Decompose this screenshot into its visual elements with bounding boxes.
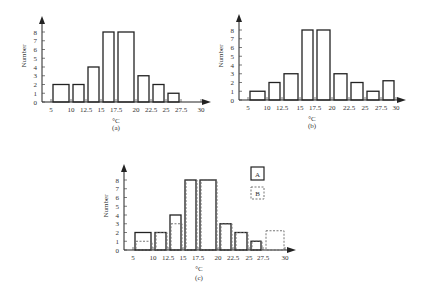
bar <box>200 180 216 250</box>
y-tick-label: 7 <box>34 37 38 45</box>
bar-series-b <box>201 180 217 250</box>
bar-series-b <box>236 233 248 251</box>
x-tick-label: 5 <box>246 104 250 112</box>
y-tick-label: 5 <box>116 203 120 211</box>
x-tick-label: 25 <box>246 254 254 262</box>
y-tick-label: 5 <box>231 53 235 61</box>
bar <box>153 85 164 103</box>
y-tick-label: 8 <box>116 177 120 185</box>
bar <box>88 67 99 102</box>
bar <box>284 74 298 100</box>
x-tick-label: 30 <box>393 104 401 112</box>
bar <box>73 85 84 103</box>
bar <box>317 30 330 100</box>
x-tick-label: 12.5 <box>276 104 289 112</box>
x-tick-label: 5 <box>49 106 53 114</box>
x-tick-label: 27.5 <box>175 106 188 114</box>
x-tick-label: 10 <box>264 104 272 112</box>
x-tick-label: 20 <box>329 104 337 112</box>
x-tick-label: 17.5 <box>309 104 322 112</box>
bar <box>235 233 247 251</box>
x-tick-label: 5 <box>131 254 135 262</box>
panel-caption: (c) <box>195 274 203 282</box>
bar-series-b <box>266 231 284 250</box>
bar-series-b <box>136 241 152 250</box>
y-axis-title: Number <box>20 44 28 68</box>
bar <box>118 32 134 102</box>
legend-label-b: B <box>255 190 260 198</box>
x-tick-label: 27.5 <box>257 254 270 262</box>
chart-panel-a: 01234567851012.51517.52022.52527.530Numb… <box>20 16 211 132</box>
y-tick-label: 4 <box>34 64 38 72</box>
y-tick-label: 0 <box>34 99 38 107</box>
y-axis-title: Number <box>102 194 110 218</box>
x-tick-label: 22.5 <box>145 106 158 114</box>
y-tick-label: 3 <box>231 70 235 78</box>
bar <box>168 93 179 102</box>
legend-label-a: A <box>255 171 260 179</box>
x-tick-label: 15 <box>297 104 305 112</box>
x-tick-label: 22.5 <box>343 104 356 112</box>
x-tick-label: 30 <box>198 106 206 114</box>
y-tick-label: 6 <box>116 194 120 202</box>
x-tick-label: 22.5 <box>227 254 240 262</box>
bar <box>351 83 363 101</box>
y-tick-label: 2 <box>34 81 38 89</box>
y-tick-label: 7 <box>231 35 235 43</box>
x-tick-label: 12.5 <box>162 254 175 262</box>
panel-caption: (a) <box>112 124 120 132</box>
bar <box>53 85 69 103</box>
y-tick-label: 4 <box>116 212 120 220</box>
x-axis-arrow-icon <box>287 247 296 253</box>
y-tick-label: 1 <box>34 90 38 98</box>
x-axis-title: °C <box>195 265 203 273</box>
y-tick-label: 0 <box>116 247 120 255</box>
x-tick-label: 17.5 <box>192 254 205 262</box>
x-tick-label: 17.5 <box>110 106 123 114</box>
bar <box>138 76 149 102</box>
bar <box>250 91 265 100</box>
chart-panel-c: 01234567851012.51517.52022.52527.530Numb… <box>102 164 296 282</box>
chart-panel-b: 01234567851012.51517.52022.52527.530Numb… <box>217 14 406 130</box>
y-tick-label: 1 <box>231 88 235 96</box>
y-tick-label: 7 <box>116 185 120 193</box>
x-tick-label: 20 <box>133 106 141 114</box>
y-axis-title: Number <box>217 44 225 68</box>
y-axis-arrow-icon <box>121 164 127 172</box>
x-tick-label: 25 <box>362 104 370 112</box>
x-tick-label: 10 <box>150 254 158 262</box>
y-tick-label: 2 <box>116 229 120 237</box>
x-tick-label: 15 <box>180 254 188 262</box>
y-tick-label: 6 <box>34 46 38 54</box>
y-tick-label: 1 <box>116 238 120 246</box>
y-tick-label: 4 <box>231 62 235 70</box>
x-axis-arrow-icon <box>202 99 211 105</box>
bar <box>367 91 379 100</box>
y-tick-label: 8 <box>231 27 235 35</box>
panel-caption: (b) <box>308 122 317 130</box>
y-tick-label: 5 <box>34 55 38 63</box>
histogram-figure: 01234567851012.51517.52022.52527.530Numb… <box>0 0 428 299</box>
x-tick-label: 30 <box>282 254 290 262</box>
bar <box>269 83 280 101</box>
bar <box>170 215 181 250</box>
bar <box>251 241 261 250</box>
bar <box>334 74 347 100</box>
y-tick-label: 8 <box>34 29 38 37</box>
legend: AB <box>251 167 264 199</box>
y-tick-label: 2 <box>231 79 235 87</box>
x-tick-label: 15 <box>98 106 106 114</box>
bar <box>383 81 394 100</box>
bar <box>302 30 313 100</box>
bar <box>220 224 231 250</box>
x-axis-arrow-icon <box>397 97 406 103</box>
x-tick-label: 10 <box>68 106 76 114</box>
y-tick-label: 6 <box>231 44 235 52</box>
x-tick-label: 25 <box>163 106 171 114</box>
y-tick-label: 0 <box>231 97 235 105</box>
y-tick-label: 3 <box>116 220 120 228</box>
y-axis-arrow-icon <box>236 14 242 22</box>
bar <box>103 32 114 102</box>
bar <box>185 180 196 250</box>
bar <box>155 233 166 251</box>
